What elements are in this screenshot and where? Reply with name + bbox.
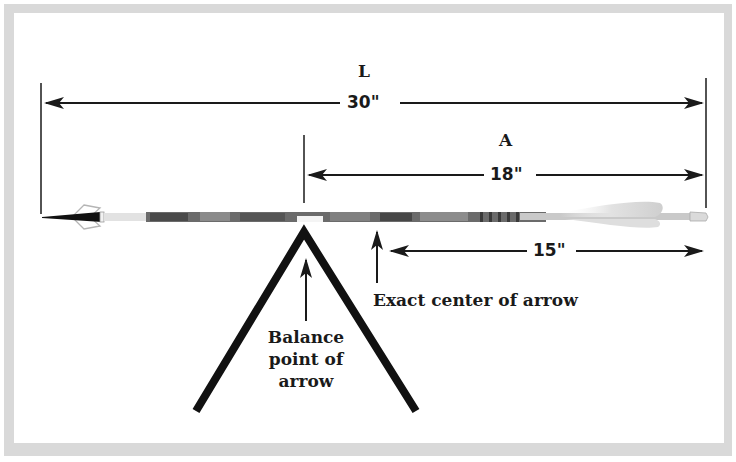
balance-caption: Balance point of arrow	[258, 326, 354, 392]
center-caption: Exact center of arrow	[373, 289, 578, 311]
balance-caption-line-2: point of	[258, 348, 354, 370]
overall-length-letter: L	[358, 61, 370, 81]
half-length-value: 15"	[527, 240, 572, 260]
balance-distance-value: 18"	[484, 164, 529, 184]
overall-length-value: 30"	[341, 92, 386, 112]
balance-distance-letter: A	[499, 130, 512, 150]
balance-caption-line-1: Balance	[258, 326, 354, 348]
balance-caption-line-3: arrow	[258, 370, 354, 392]
arrow-shaft-illustration	[42, 202, 708, 229]
